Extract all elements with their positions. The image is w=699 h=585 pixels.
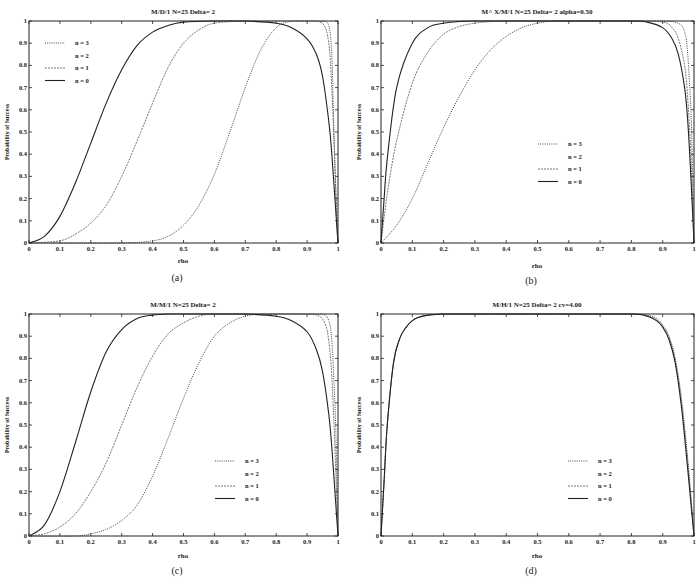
x-tick-label: 0.8 xyxy=(627,538,636,545)
series-line-n1 xyxy=(381,314,694,536)
x-tick-label: 1 xyxy=(692,538,695,545)
x-tick-label: 0.6 xyxy=(565,538,574,545)
y-tick-label: 0.3 xyxy=(371,465,380,472)
y-tick-label: 0.1 xyxy=(371,510,379,517)
y-tick-label: 0.9 xyxy=(371,332,380,339)
x-tick-label: 0.9 xyxy=(659,538,668,545)
y-tick-label: 1 xyxy=(376,310,379,317)
legend-label: n = 1 xyxy=(598,482,612,489)
x-tick-label: 0.7 xyxy=(596,538,605,545)
x-tick-label: 0.5 xyxy=(533,538,542,545)
y-tick-label: 0.6 xyxy=(371,399,380,406)
x-tick-label: 0.1 xyxy=(408,538,416,545)
y-tick-label: 0.4 xyxy=(371,443,380,450)
legend-label: n = 2 xyxy=(598,470,612,477)
y-tick-label: 0.8 xyxy=(371,354,380,361)
x-tick-label: 0.3 xyxy=(471,538,480,545)
axes-frame xyxy=(381,314,694,536)
legend-label: n = 0 xyxy=(598,495,612,502)
legend-label: n = 3 xyxy=(598,457,613,464)
y-tick-label: 0.7 xyxy=(371,377,380,384)
y-tick-label: 0 xyxy=(376,532,379,539)
plot-area-d: 00.10.20.30.40.50.60.70.80.9100.10.20.30… xyxy=(0,0,699,585)
series-line-n3 xyxy=(381,314,694,536)
y-tick-label: 0.2 xyxy=(371,488,379,495)
series-line-n0 xyxy=(381,314,694,536)
x-tick-label: 0 xyxy=(379,538,382,545)
y-tick-label: 0.5 xyxy=(371,421,380,428)
x-tick-label: 0.4 xyxy=(502,538,511,545)
x-tick-label: 0.2 xyxy=(440,538,448,545)
